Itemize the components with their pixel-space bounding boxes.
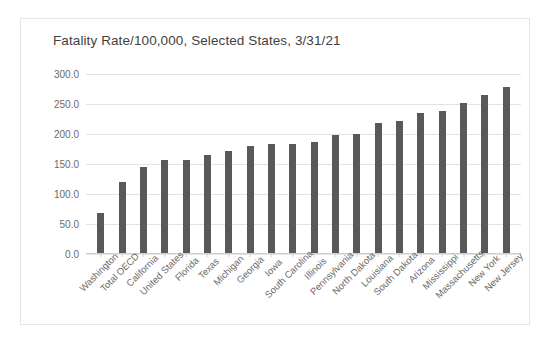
bar[interactable] xyxy=(439,111,446,254)
bar[interactable] xyxy=(183,160,190,254)
y-axis-tick-label: 300.0 xyxy=(54,69,79,80)
bar[interactable] xyxy=(503,87,510,254)
bar[interactable] xyxy=(97,213,104,254)
chart-card: Fatality Rate/100,000, Selected States, … xyxy=(20,18,530,325)
x-label-slot: North Dakota xyxy=(346,257,367,327)
bar[interactable] xyxy=(161,160,168,254)
bar[interactable] xyxy=(396,121,403,254)
bar-slot xyxy=(346,74,367,254)
x-label-slot: Michigan xyxy=(218,257,239,327)
y-axis-tick-label: 200.0 xyxy=(54,129,79,140)
bar-slot xyxy=(410,74,431,254)
bar[interactable] xyxy=(204,155,211,254)
x-label-slot: Washington xyxy=(90,257,111,327)
x-label-slot: New York xyxy=(474,257,495,327)
y-axis-tick-label: 100.0 xyxy=(54,189,79,200)
bar-slot xyxy=(197,74,218,254)
bar[interactable] xyxy=(247,146,254,254)
x-label-slot: Texas xyxy=(197,257,218,327)
x-label-slot: Massachusetts xyxy=(453,257,474,327)
bar-slot xyxy=(325,74,346,254)
x-label-slot: South Dakota xyxy=(389,257,410,327)
x-axis-labels: WashingtonTotal OECDCaliforniaUnited Sta… xyxy=(86,257,521,327)
bar-slot xyxy=(175,74,196,254)
bar-slot xyxy=(367,74,388,254)
bar-slot xyxy=(239,74,260,254)
bar[interactable] xyxy=(332,135,339,254)
bar[interactable] xyxy=(481,95,488,254)
x-label-slot: New Jersey xyxy=(496,257,517,327)
bar-slot xyxy=(154,74,175,254)
x-label-slot: United States xyxy=(154,257,175,327)
plot-area: 300.0250.0200.0150.0100.050.00.0 xyxy=(86,74,521,254)
bar-slot xyxy=(90,74,111,254)
x-label-slot: Total OECD xyxy=(111,257,132,327)
bar-slot xyxy=(261,74,282,254)
x-label-slot: Georgia xyxy=(239,257,260,327)
bar-slot xyxy=(453,74,474,254)
bar[interactable] xyxy=(225,151,232,254)
chart-title: Fatality Rate/100,000, Selected States, … xyxy=(53,33,341,48)
bar-slot xyxy=(133,74,154,254)
bar-slot xyxy=(474,74,495,254)
bar-slot xyxy=(496,74,517,254)
bar[interactable] xyxy=(268,144,275,254)
x-label-slot: Florida xyxy=(175,257,196,327)
y-axis-tick-label: 150.0 xyxy=(54,159,79,170)
bar[interactable] xyxy=(375,123,382,254)
y-axis-tick-label: 50.0 xyxy=(60,219,79,230)
bar[interactable] xyxy=(460,103,467,254)
y-axis-tick-label: 0.0 xyxy=(65,249,79,260)
bar-slot xyxy=(218,74,239,254)
bar[interactable] xyxy=(311,142,318,254)
bar-slot xyxy=(111,74,132,254)
bar-slot xyxy=(389,74,410,254)
bar-slot xyxy=(432,74,453,254)
bar-series xyxy=(86,74,521,254)
bar-slot xyxy=(282,74,303,254)
x-label-slot: Arizona xyxy=(410,257,431,327)
bar[interactable] xyxy=(119,182,126,254)
bar-slot xyxy=(303,74,324,254)
bar[interactable] xyxy=(353,134,360,254)
x-label-slot: South Carolina xyxy=(282,257,303,327)
y-axis-tick-label: 250.0 xyxy=(54,99,79,110)
bar[interactable] xyxy=(140,167,147,254)
bar[interactable] xyxy=(417,113,424,254)
bar[interactable] xyxy=(289,144,296,254)
